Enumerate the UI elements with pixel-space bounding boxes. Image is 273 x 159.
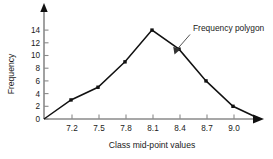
data-point bbox=[150, 28, 153, 31]
data-point bbox=[123, 60, 126, 63]
y-tick-label-4: 4 bbox=[35, 90, 40, 99]
x-axis-tick-labels: 7.2 7.5 7.8 8.1 8.4 8.7 9.0 bbox=[66, 124, 240, 133]
x-tick-label-8-7: 8.7 bbox=[201, 124, 213, 133]
x-axis-title: Class mid-point values bbox=[109, 140, 195, 150]
y-tick-label-10: 10 bbox=[31, 51, 41, 60]
y-tick-label-6: 6 bbox=[35, 77, 40, 86]
x-tick-label-9-0: 9.0 bbox=[228, 124, 240, 133]
y-axis-title: Frequency bbox=[6, 53, 16, 94]
x-tick-label-7-5: 7.5 bbox=[93, 124, 105, 133]
data-point bbox=[96, 86, 99, 89]
y-axis bbox=[40, 3, 47, 119]
y-tick-label-14: 14 bbox=[31, 26, 41, 35]
y-tick-label-2: 2 bbox=[35, 102, 40, 111]
data-point bbox=[231, 105, 234, 108]
annotation-label: Frequency polygon bbox=[193, 23, 265, 33]
annotation-leader-line bbox=[177, 35, 191, 51]
y-tick-label-12: 12 bbox=[31, 39, 41, 48]
frequency-polygon-chart: 14 12 10 8 6 4 2 0 7.2 7.5 7.8 8.1 8.4 8… bbox=[0, 0, 273, 159]
y-axis-arrow-icon bbox=[40, 3, 47, 12]
y-axis-tick-labels: 14 12 10 8 6 4 2 0 bbox=[31, 26, 41, 124]
x-tick-label-7-2: 7.2 bbox=[66, 124, 78, 133]
frequency-polygon-line bbox=[44, 30, 260, 119]
x-axis bbox=[44, 115, 264, 124]
data-point-markers bbox=[69, 28, 234, 108]
x-tick-label-8-1: 8.1 bbox=[147, 124, 159, 133]
y-tick-label-8: 8 bbox=[35, 64, 40, 73]
x-tick-label-7-8: 7.8 bbox=[120, 124, 132, 133]
chart-canvas: 14 12 10 8 6 4 2 0 7.2 7.5 7.8 8.1 8.4 8… bbox=[0, 0, 273, 159]
y-tick-label-0: 0 bbox=[35, 115, 40, 124]
x-tick-label-8-4: 8.4 bbox=[174, 124, 186, 133]
data-point bbox=[204, 79, 207, 82]
data-point bbox=[69, 98, 72, 101]
frequency-polygon-annotation: Frequency polygon bbox=[173, 23, 264, 55]
